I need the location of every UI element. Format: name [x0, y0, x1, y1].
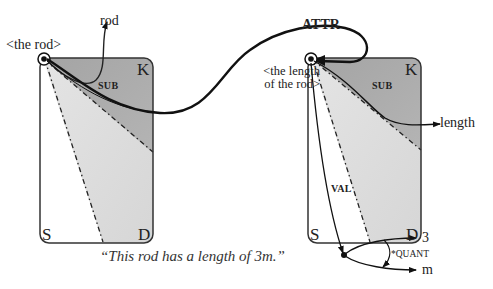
the-rod-label: <the rod> — [6, 38, 61, 52]
rod-label: rod — [100, 14, 119, 28]
the-length-label-2: of the rod> — [245, 78, 320, 91]
quant-arc — [383, 240, 390, 267]
left-sub-label: SUB — [98, 81, 118, 91]
left-corner-d: D — [138, 226, 150, 243]
left-frame — [40, 58, 153, 243]
the-length-label-1: <the length — [245, 65, 320, 78]
quant-unit-label: m — [422, 263, 433, 277]
right-sub-label: SUB — [372, 81, 392, 91]
right-corner-d: D — [406, 226, 418, 243]
right-corner-s: S — [310, 226, 319, 243]
left-corner-k: K — [137, 61, 149, 78]
caption: “This rod has a length of 3m.” — [100, 249, 285, 264]
attr-label: ATTR — [302, 18, 340, 32]
right-corner-k: K — [405, 61, 417, 78]
quant-value-label: 3 — [422, 231, 429, 245]
right-frame — [308, 58, 421, 243]
length-label: length — [440, 116, 475, 130]
quant-label: *QUANT — [391, 250, 429, 260]
diagram-canvas — [0, 0, 493, 289]
val-label: VAL — [331, 184, 352, 194]
left-corner-s: S — [42, 226, 51, 243]
